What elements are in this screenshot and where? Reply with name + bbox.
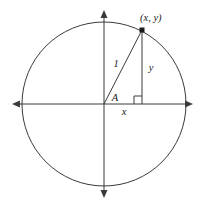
point-coordinate-label: (x, y): [140, 12, 162, 24]
radius-length-label: 1: [113, 58, 118, 69]
unit-circle-diagram: (x, y) 1 y x A: [0, 0, 207, 208]
unit-circle-figure: (x, y) 1 y x A: [0, 0, 207, 208]
x-axis-left-arrow-icon: [12, 101, 20, 108]
y-axis-up-arrow-icon: [101, 10, 108, 18]
adjacent-side-label: x: [121, 106, 127, 117]
x-axis-right-arrow-icon: [185, 101, 193, 108]
radius-hypotenuse-segment: [104, 30, 142, 104]
y-axis-down-arrow-icon: [101, 190, 108, 198]
right-angle-marker-icon: [134, 96, 142, 104]
point-marker-icon: [140, 28, 145, 33]
opposite-side-label: y: [148, 62, 154, 73]
angle-label: A: [111, 92, 119, 103]
